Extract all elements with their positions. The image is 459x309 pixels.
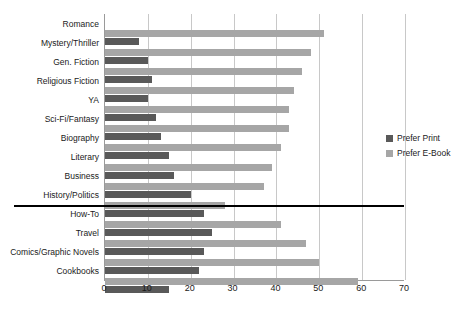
category-label: Literary [71,152,99,162]
legend-swatch [386,150,393,157]
category-label: Business [65,171,100,181]
bar-prefer-ebook [105,87,294,94]
x-tick-label: 40 [265,283,285,294]
x-tick-label: 50 [308,283,328,294]
legend-label: Prefer Print [397,133,440,143]
category-label: Travel [76,228,99,238]
category-label: Gen. Fiction [53,57,99,67]
category-label: Comics/Graphic Novels [10,247,99,257]
bar-prefer-ebook [105,68,302,75]
bar-prefer-print [105,172,174,179]
bar-prefer-print [105,38,139,45]
x-tick-label: 0 [94,283,114,294]
gridline [319,14,320,280]
x-tick-label: 60 [351,283,371,294]
x-tick-label: 30 [223,283,243,294]
legend-item: Prefer E-Book [386,148,450,158]
bar-prefer-ebook [105,221,281,228]
bar-prefer-ebook [105,144,281,151]
bar-prefer-print [105,210,204,217]
bar-prefer-ebook [105,30,324,37]
category-label: YA [88,95,99,105]
bar-prefer-ebook [105,259,319,266]
gridline [362,14,363,280]
bar-prefer-print [105,152,169,159]
x-tick-label: 20 [180,283,200,294]
category-label: Cookbooks [56,266,99,276]
separator-line [14,205,404,207]
chart-container: Prefer PrintPrefer E-Book 01020304050607… [0,0,459,309]
category-label: How-To [70,209,99,219]
bar-prefer-print [105,267,199,274]
plot-area [104,14,404,281]
bar-prefer-ebook [105,240,306,247]
category-label: Romance [63,19,99,29]
bar-prefer-ebook [105,183,264,190]
bar-prefer-print [105,248,204,255]
bar-prefer-print [105,76,152,83]
category-label: Mystery/Thriller [41,38,99,48]
bar-prefer-print [105,95,148,102]
legend-label: Prefer E-Book [397,148,450,158]
legend-swatch [386,135,393,142]
bar-prefer-print [105,57,148,64]
bar-prefer-ebook [105,49,311,56]
category-label: Biography [61,133,99,143]
bar-prefer-ebook [105,106,289,113]
x-tick-label: 10 [137,283,157,294]
category-label: Religious Fiction [37,76,99,86]
bar-prefer-print [105,191,191,198]
bar-prefer-ebook [105,164,272,171]
x-tick-label: 70 [394,283,414,294]
chart-legend: Prefer PrintPrefer E-Book [386,133,450,163]
category-label: History/Politics [43,190,99,200]
bar-prefer-ebook [105,125,289,132]
category-label: Sci-Fi/Fantasy [45,114,99,124]
legend-item: Prefer Print [386,133,450,143]
bar-prefer-print [105,229,212,236]
bar-prefer-print [105,114,156,121]
bar-prefer-print [105,133,161,140]
